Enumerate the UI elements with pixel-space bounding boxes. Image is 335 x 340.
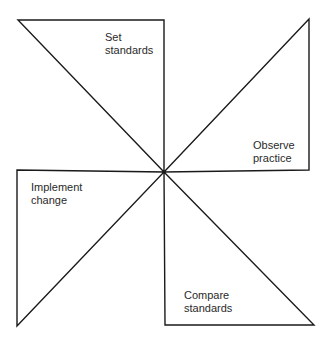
label-line: Implement — [31, 181, 82, 194]
label-line: practice — [253, 152, 295, 165]
label-line: Set — [105, 31, 153, 44]
label-line: Observe — [253, 139, 295, 152]
center-hub — [162, 170, 165, 173]
label-line: change — [31, 194, 82, 207]
label-observe-practice: Observe practice — [253, 139, 295, 165]
label-line: standards — [184, 302, 232, 315]
label-set-standards: Set standards — [105, 31, 153, 57]
pinwheel-diagram — [0, 0, 335, 340]
label-implement-change: Implement change — [31, 181, 82, 207]
label-compare-standards: Compare standards — [184, 289, 232, 315]
label-line: standards — [105, 44, 153, 57]
label-line: Compare — [184, 289, 232, 302]
